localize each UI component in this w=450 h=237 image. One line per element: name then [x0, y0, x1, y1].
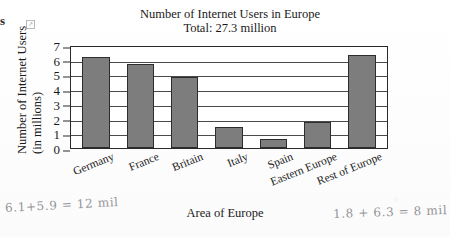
- plot-area: [70, 46, 388, 149]
- chart-title-main: Number of Internet Users in Europe: [140, 7, 320, 21]
- y-axis-tick: 1: [54, 128, 71, 141]
- y-axis-tick: 7: [54, 40, 71, 53]
- x-axis-label-france: France: [127, 150, 161, 173]
- y-axis-label: Number of Internet Users (in millions): [14, 34, 54, 154]
- bar-france[interactable]: [127, 64, 154, 148]
- scan-edge-glyph: s: [0, 14, 5, 27]
- bar-slot: [251, 47, 295, 148]
- bar-rest-of-europe[interactable]: [348, 55, 375, 148]
- bar-slot: [74, 47, 118, 148]
- bar-slot: [340, 47, 384, 148]
- y-axis-label-line1: Number of Internet Users: [16, 26, 29, 154]
- y-axis-tick: 3: [54, 98, 71, 111]
- bar-slot: [295, 47, 339, 148]
- y-axis-tick: 2: [54, 113, 71, 126]
- chart-subtitle: Total: 27.3 million: [96, 22, 364, 36]
- x-axis-label-britain: Britain: [171, 150, 205, 173]
- chart-title: Number of Internet Users in Europe Total…: [96, 8, 364, 35]
- x-axis-label-italy: Italy: [225, 150, 249, 169]
- bar-slot: [207, 47, 251, 148]
- bar-eastern-europe[interactable]: [304, 122, 331, 148]
- y-axis-tick: 0: [54, 143, 71, 156]
- x-axis-label-germany: Germany: [72, 150, 116, 177]
- bar-britain[interactable]: [171, 77, 198, 148]
- bar-slot: [163, 47, 207, 148]
- y-axis-tick: 5: [54, 69, 71, 82]
- bar-italy[interactable]: [215, 127, 242, 148]
- y-axis-ticks: 76543210: [52, 46, 70, 149]
- y-axis-tick: 4: [54, 84, 71, 97]
- bar-series: [71, 47, 387, 148]
- y-axis-tick: 6: [54, 54, 71, 67]
- bar-germany[interactable]: [82, 57, 109, 148]
- bar-spain[interactable]: [260, 139, 287, 148]
- bar-slot: [118, 47, 162, 148]
- y-axis-label-line2: (in millions): [31, 92, 44, 154]
